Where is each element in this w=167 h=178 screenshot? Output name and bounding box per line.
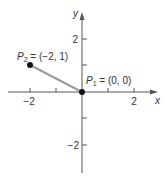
point-p1 <box>79 89 85 95</box>
y-axis-label: y <box>72 8 79 19</box>
point-p2-label: P2 = (−2, 1) <box>17 51 68 63</box>
y-tick-label-2: 2 <box>72 34 78 45</box>
x-axis-label: x <box>154 95 161 106</box>
coordinate-plane: −2 2 2 −2 x y P2 = (−2, 1) P1 = (0, 0) <box>0 0 167 178</box>
point-p1-label: P1 = (0, 0) <box>86 75 131 87</box>
y-axis-arrow-icon <box>80 12 85 20</box>
point-p2 <box>27 62 33 68</box>
segment-p2-p1 <box>30 65 82 92</box>
y-tick-label-neg2: −2 <box>68 140 80 151</box>
x-axis-arrow-icon <box>150 90 158 95</box>
x-tick-label-2: 2 <box>131 96 137 107</box>
x-tick-label-neg2: −2 <box>23 96 35 107</box>
